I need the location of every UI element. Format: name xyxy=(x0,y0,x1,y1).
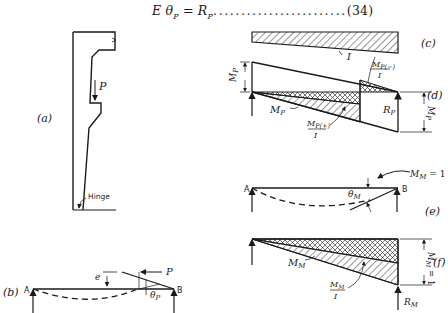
panel-c-inertia-label: I xyxy=(346,51,352,62)
panel-e-tag: (e) xyxy=(425,205,440,218)
panel-c-tag: (c) xyxy=(421,37,436,50)
panel-a-wall-section xyxy=(73,32,116,210)
figure-canvas: P Hinge (a) A B P e θP (b) I (c) xyxy=(0,0,448,313)
panel-d-pos-ratio-den: I xyxy=(313,131,318,140)
panel-f-ratio-num: MM xyxy=(329,280,345,290)
panel-d-tag: (d) xyxy=(427,89,443,102)
panel-d-moment-label: MP xyxy=(269,104,285,117)
panel-e-beam xyxy=(252,171,410,212)
panel-b-eccentricity: e xyxy=(95,272,100,282)
panel-b-support-b: B xyxy=(177,286,183,295)
panel-e-support-b: B xyxy=(402,185,408,194)
panel-d-pos-ratio-num: MP(+) xyxy=(306,119,331,130)
panel-b-support-a: A xyxy=(24,286,30,295)
panel-c-inertia-diagram xyxy=(252,32,398,55)
panel-e-rotation: θM xyxy=(348,189,361,201)
panel-e-unit-moment: MM = 1 xyxy=(409,169,445,181)
panel-d-neg-ratio-den: I xyxy=(377,71,382,80)
panel-d-moment-diagram xyxy=(240,57,432,132)
panel-f-moment-label: MM xyxy=(287,257,306,270)
panel-f-tag: (f) xyxy=(433,256,446,269)
panel-b-load-label: P xyxy=(165,266,173,277)
panel-d-right-dimension: MP xyxy=(424,105,436,120)
hinge-label: Hinge xyxy=(88,192,110,201)
panel-e-support-a: A xyxy=(244,185,250,194)
panel-b-tag: (b) xyxy=(3,286,19,299)
panel-b-rotation: θP xyxy=(150,290,160,302)
panel-f-ratio-den: I xyxy=(333,292,338,301)
panel-a-load-label: P xyxy=(98,80,107,93)
panel-f-reaction-label: RM xyxy=(403,297,419,309)
panel-d-left-dimension: MP xyxy=(228,68,240,83)
panel-a-tag: (a) xyxy=(37,112,52,125)
panel-d-reaction-label: RP xyxy=(382,104,396,117)
